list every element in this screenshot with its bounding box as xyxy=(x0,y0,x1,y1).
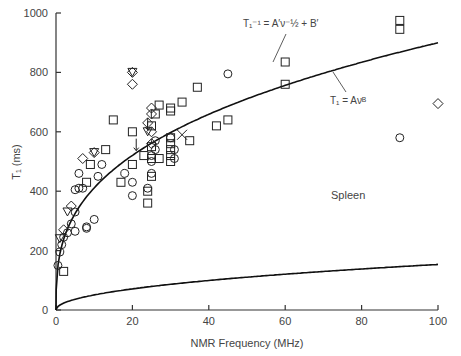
square-marker xyxy=(224,116,232,124)
square-marker xyxy=(128,128,136,136)
tissue-annotation: Spleen xyxy=(331,189,365,201)
diamond-marker xyxy=(433,99,443,109)
x-axis-label: NMR Frequency (MHz) xyxy=(190,337,303,349)
square-marker xyxy=(178,98,186,106)
tick-labels: 02040608010002004006008001000 xyxy=(24,7,448,327)
x-tick-label: 60 xyxy=(279,315,291,327)
x-tick-label: 20 xyxy=(126,315,138,327)
circle-marker xyxy=(94,172,102,180)
circle-marker xyxy=(121,169,129,177)
y-tick-label: 800 xyxy=(30,66,48,78)
circle-marker xyxy=(71,227,79,235)
square-marker xyxy=(128,160,136,168)
square-marker xyxy=(117,178,125,186)
square-marker xyxy=(167,107,175,115)
y-tick-label: 1000 xyxy=(24,7,48,19)
x-tick-label: 80 xyxy=(355,315,367,327)
fit-curve-inverse_sqrt xyxy=(56,264,438,310)
square-marker xyxy=(83,178,91,186)
x-tick-label: 100 xyxy=(429,315,447,327)
annotations: T₁ (ms)T₁⁻¹ = A′ν⁻½ + B′T₁ = Aνᴮ xyxy=(10,18,366,180)
y-tick-label: 0 xyxy=(42,304,48,316)
square-marker xyxy=(193,83,201,91)
square-marker xyxy=(102,146,110,154)
diamond-marker xyxy=(127,79,137,89)
square-marker xyxy=(155,155,163,163)
square-marker xyxy=(186,137,194,145)
square-marker xyxy=(140,152,148,160)
circle-marker xyxy=(90,215,98,223)
x-tick-label: 40 xyxy=(203,315,215,327)
circle-marker xyxy=(144,184,152,192)
circle-marker xyxy=(75,169,83,177)
circle-marker xyxy=(148,169,156,177)
circle-marker xyxy=(396,134,404,142)
square-marker xyxy=(396,25,404,33)
y-axis-label: T₁ (ms) xyxy=(10,144,22,179)
triangle-down-marker xyxy=(128,68,137,76)
fit-curve-power xyxy=(56,43,438,310)
y-tick-label: 600 xyxy=(30,126,48,138)
t1-vs-frequency-chart: 02040608010002004006008001000 T₁ (ms)T₁⁻… xyxy=(0,0,461,356)
circle-marker xyxy=(98,160,106,168)
square-marker xyxy=(144,199,152,207)
square-marker xyxy=(167,104,175,112)
circle-marker xyxy=(224,70,232,78)
square-marker xyxy=(151,110,159,118)
circle-marker xyxy=(148,152,156,160)
fit-curves xyxy=(56,43,438,310)
equation-label-power: T₁ = Aνᴮ xyxy=(330,95,366,106)
x-tick-label: 0 xyxy=(53,315,59,327)
triangle-down-marker xyxy=(90,149,99,157)
square-marker xyxy=(109,116,117,124)
leader-line xyxy=(333,72,346,92)
square-marker xyxy=(86,160,94,168)
circle-marker xyxy=(167,134,175,142)
cross-marker xyxy=(177,130,187,140)
square-marker xyxy=(281,58,289,66)
arrow-down-marker xyxy=(134,139,139,151)
y-tick-label: 400 xyxy=(30,185,48,197)
circle-marker xyxy=(128,178,136,186)
y-tick-label: 200 xyxy=(30,245,48,257)
circle-marker xyxy=(128,192,136,200)
square-marker xyxy=(212,122,220,130)
square-marker xyxy=(396,16,404,24)
equation-label-inverse-sqrt: T₁⁻¹ = A′ν⁻½ + B′ xyxy=(243,18,319,29)
